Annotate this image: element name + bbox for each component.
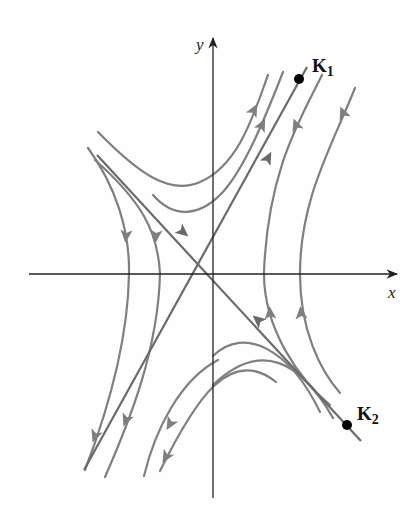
- direction-arrow-icon: [149, 229, 162, 243]
- trajectory-upper-2: [153, 72, 283, 212]
- direction-arrow-icon: [157, 449, 174, 466]
- trajectory-upper-1: [98, 75, 268, 186]
- phase-portrait-svg: x y K1 K2: [0, 0, 417, 518]
- k2-label: K2: [357, 403, 379, 427]
- phase-portrait-figure: x y K1 K2: [0, 0, 417, 518]
- direction-arrow-icon: [254, 116, 271, 133]
- direction-arrow-icon: [161, 416, 178, 433]
- direction-arrow-icon: [260, 149, 277, 166]
- direction-arrows: [87, 101, 351, 466]
- trajectory-lower-right-2: [213, 360, 333, 418]
- k2-point: [342, 420, 352, 430]
- trajectory-right-1: [264, 274, 330, 405]
- coordinate-axes: x y: [29, 35, 397, 498]
- direction-arrow-icon: [249, 311, 267, 329]
- direction-arrow-icon: [294, 306, 307, 320]
- k1-label: K1: [312, 55, 334, 79]
- trajectory-right-2: [300, 274, 340, 393]
- trajectory-upper-3: [264, 75, 322, 274]
- eigenvector-points: K1 K2: [294, 55, 379, 430]
- direction-arrow-icon: [175, 224, 193, 242]
- trajectory-lower-left-4: [160, 370, 276, 471]
- direction-arrow-icon: [246, 101, 263, 118]
- trajectory-lower-left-1: [85, 274, 129, 470]
- x-axis-label: x: [387, 283, 396, 302]
- y-axis-label: y: [194, 35, 204, 54]
- trajectory-lower-left-3: [144, 360, 218, 476]
- k1-point: [294, 74, 304, 84]
